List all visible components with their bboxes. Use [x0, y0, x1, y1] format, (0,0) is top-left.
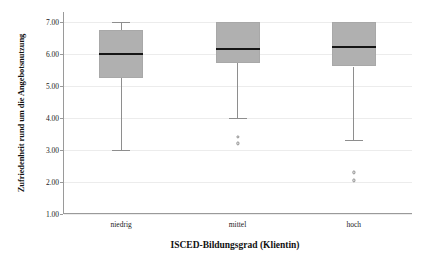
whisker-cap-lower — [229, 118, 247, 119]
whisker-upper — [121, 22, 122, 30]
y-tick-mark — [60, 214, 63, 215]
whisker-cap-lower — [112, 150, 130, 151]
median-line — [332, 46, 376, 48]
x-tick-label-hoch: hoch — [347, 220, 362, 229]
x-axis-title: ISCED-Bildungsgrad (Klientin) — [60, 240, 410, 250]
gridline — [64, 214, 412, 215]
box-rect — [216, 22, 260, 64]
whisker-cap-lower — [345, 140, 363, 141]
y-tick-mark — [60, 86, 63, 87]
gridline — [64, 182, 412, 183]
y-tick-label: 4.00 — [46, 113, 59, 122]
y-tick-mark — [60, 22, 63, 23]
plot-area: 1.002.003.004.005.006.007.00 niedrigmitt… — [63, 12, 412, 214]
outlier-point — [236, 135, 239, 138]
outlier-point — [352, 171, 355, 174]
whisker-cap-upper — [112, 22, 130, 23]
y-tick-mark — [60, 182, 63, 183]
whisker-lower — [353, 67, 354, 141]
y-axis-title: Zufriedenheit rund um die Angebotsnutzun… — [14, 4, 28, 222]
whisker-lower — [237, 63, 238, 118]
y-tick-mark — [60, 118, 63, 119]
boxplot-figure: Zufriedenheit rund um die Angebotsnutzun… — [0, 0, 430, 262]
y-tick-label: 5.00 — [46, 81, 59, 90]
gridline — [64, 86, 412, 87]
y-tick-label: 1.00 — [46, 210, 59, 219]
y-tick-label: 7.00 — [46, 17, 59, 26]
y-tick-label: 2.00 — [46, 177, 59, 186]
median-line — [216, 48, 260, 50]
x-tick-label-mittel: mittel — [229, 220, 247, 229]
x-tick-label-niedrig: niedrig — [111, 220, 132, 229]
y-tick-label: 6.00 — [46, 49, 59, 58]
y-tick-label: 3.00 — [46, 145, 59, 154]
median-line — [99, 53, 143, 55]
y-axis-line — [63, 12, 64, 214]
y-tick-mark — [60, 150, 63, 151]
y-tick-mark — [60, 54, 63, 55]
box-rect — [332, 22, 376, 67]
whisker-lower — [121, 78, 122, 150]
outlier-point — [236, 142, 239, 145]
